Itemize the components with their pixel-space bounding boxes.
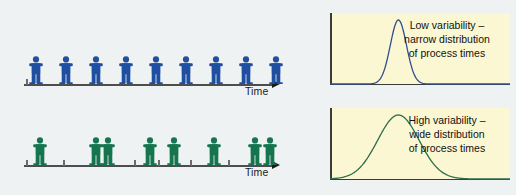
person-icon — [238, 56, 254, 84]
caption-line: Low variability – — [391, 18, 503, 32]
person-icon — [206, 137, 222, 165]
person-icon — [178, 56, 194, 84]
person-icon — [88, 56, 104, 84]
low-variability-timeline: Time — [0, 0, 320, 95]
high-variability-timeline: Time — [0, 96, 320, 191]
timeline-tick — [190, 160, 192, 166]
caption-line: High variability – — [391, 113, 503, 127]
person-icon — [247, 137, 263, 165]
caption-line: of process times — [391, 46, 503, 60]
timeline-axis-low — [24, 84, 274, 86]
caption-line: of process times — [391, 141, 503, 155]
low-variability-caption: Low variability – narrow distribution of… — [391, 18, 503, 60]
person-icon — [208, 56, 224, 84]
person-icon — [148, 56, 164, 84]
person-icon — [142, 137, 158, 165]
variability-figure: Time — [0, 0, 516, 195]
person-icon — [268, 56, 284, 84]
timeline-tick — [26, 160, 28, 166]
person-icon — [166, 137, 182, 165]
low-variability-distribution-panel: Low variability – narrow distribution of… — [330, 13, 510, 85]
high-variability-caption: High variability – wide distribution of … — [391, 113, 503, 155]
caption-line: narrow distribution — [391, 32, 503, 46]
person-icon — [58, 56, 74, 84]
person-icon — [262, 137, 278, 165]
timeline-tick — [134, 160, 136, 166]
person-icon — [100, 137, 116, 165]
timeline-tick — [63, 160, 65, 166]
person-icon — [118, 56, 134, 84]
person-icon — [32, 137, 48, 165]
timeline-axis-label-high: Time — [245, 166, 268, 178]
timeline-axis-high — [24, 165, 274, 167]
high-variability-distribution-panel: High variability – wide distribution of … — [330, 108, 510, 180]
person-icon — [28, 56, 44, 84]
timeline-tick — [228, 160, 230, 166]
caption-line: wide distribution — [391, 127, 503, 141]
timeline-tick — [158, 160, 160, 166]
